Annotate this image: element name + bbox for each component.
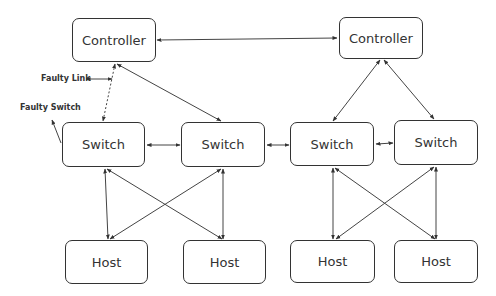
link-faulty-controller-switch <box>103 64 115 121</box>
controller-left: Controller <box>72 18 156 62</box>
switch-4-label: Switch <box>415 135 458 150</box>
host-4-label: Host <box>421 254 451 269</box>
host-3-label: Host <box>318 254 348 269</box>
switch-2: Switch <box>181 122 265 167</box>
link-controller-switch-2 <box>117 64 221 121</box>
faulty-switch-pointer <box>52 120 61 143</box>
link-s1-h1 <box>105 169 108 239</box>
host-3: Host <box>290 240 375 283</box>
host-2: Host <box>183 240 266 284</box>
switch-3-label: Switch <box>311 137 354 152</box>
link-controller-switch-4 <box>384 60 434 119</box>
host-1-label: Host <box>92 255 122 270</box>
switch-3: Switch <box>290 122 374 166</box>
switch-1: Switch <box>62 122 145 167</box>
switch-1-label: Switch <box>82 137 125 152</box>
faulty-link-annotation: Faulty Link <box>41 74 91 83</box>
controller-right: Controller <box>339 17 423 59</box>
link-controller-switch-3 <box>333 60 380 121</box>
link-switch-3-4 <box>376 143 393 144</box>
faulty-switch-annotation: Faulty Switch <box>20 103 81 112</box>
controller-left-label: Controller <box>82 33 146 48</box>
switch-2-label: Switch <box>202 137 245 152</box>
host-4: Host <box>394 240 478 283</box>
host-2-label: Host <box>210 255 240 270</box>
host-1: Host <box>65 240 148 284</box>
switch-4: Switch <box>394 120 478 165</box>
link-controller-controller <box>157 38 337 40</box>
controller-right-label: Controller <box>349 31 413 46</box>
